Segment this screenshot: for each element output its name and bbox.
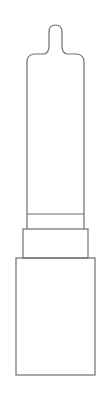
bullet-outline	[27, 25, 84, 229]
base-case	[16, 258, 95, 375]
lipstick-diagram	[0, 0, 108, 398]
collar	[23, 229, 88, 258]
